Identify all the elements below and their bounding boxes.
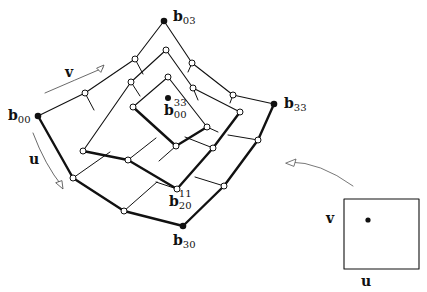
label-b03-base: b bbox=[173, 8, 183, 24]
v-direction-arrow bbox=[45, 68, 103, 93]
label-b20-11: b1120 bbox=[169, 194, 192, 208]
label-b00-33-sub: 00 bbox=[174, 109, 187, 120]
label-b30-base: b bbox=[173, 232, 183, 248]
point-b03 bbox=[161, 18, 168, 25]
ring2-bottom-left-edge bbox=[83, 151, 177, 189]
label-u-domain: u bbox=[361, 274, 371, 288]
mapping-arrow bbox=[290, 162, 353, 186]
label-b00: b00 bbox=[8, 108, 31, 125]
point-b30 bbox=[180, 223, 187, 230]
label-b33: b33 bbox=[284, 96, 307, 113]
label-b20-11-base: b bbox=[169, 193, 179, 209]
outer-top-right-edge bbox=[164, 21, 274, 104]
label-b03: b03 bbox=[173, 9, 196, 26]
label-b00-33: b3300 bbox=[164, 103, 187, 117]
label-v-domain: v bbox=[326, 211, 334, 225]
label-b20-11-sup: 11 bbox=[179, 189, 192, 199]
label-v-patch: v bbox=[65, 65, 73, 79]
label-u-patch: u bbox=[29, 152, 39, 166]
label-b33-base: b bbox=[284, 95, 294, 111]
point-b33 bbox=[271, 101, 278, 108]
ring2-top-left-edge bbox=[83, 50, 166, 151]
label-b30-sub: 30 bbox=[183, 239, 196, 250]
label-b00-33-sup: 33 bbox=[174, 98, 187, 108]
parameter-domain-square bbox=[344, 199, 419, 269]
label-b00-33-base: b bbox=[164, 102, 174, 118]
label-b03-sub: 03 bbox=[183, 15, 196, 26]
point-b00-33 bbox=[165, 95, 171, 101]
label-b33-sub: 33 bbox=[294, 102, 307, 113]
point-b00 bbox=[35, 113, 42, 120]
label-b00-base: b bbox=[8, 107, 18, 123]
patch-diagram bbox=[0, 0, 427, 292]
label-b20-11-sub: 20 bbox=[179, 200, 192, 211]
label-b30: b30 bbox=[173, 233, 196, 250]
domain-point bbox=[365, 217, 370, 222]
label-b00-sub: 00 bbox=[18, 114, 31, 125]
